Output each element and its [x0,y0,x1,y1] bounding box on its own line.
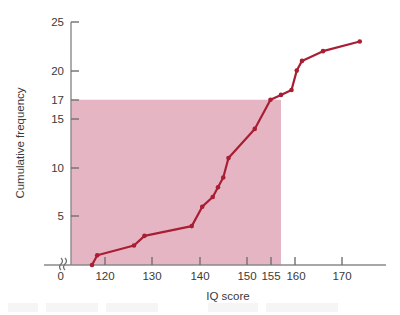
data-point [252,127,257,132]
data-point [321,49,326,54]
median-reference-block [71,100,281,265]
data-point [294,68,299,73]
y-tick-label-10: 10 [51,162,64,174]
data-point [216,185,221,190]
figure-caption-partial [8,303,392,312]
data-point [95,253,100,258]
data-point [189,224,194,229]
data-point [221,175,226,180]
data-point [226,156,231,161]
x-tick-label-120: 120 [95,270,114,282]
data-point [289,88,294,93]
x-tick-label-140: 140 [190,270,209,282]
x-tick-label-155: 155 [261,270,280,282]
y-tick-label-0: 0 [58,270,64,282]
data-point [279,93,284,98]
data-point [142,234,147,239]
data-point [132,243,137,248]
x-tick-label-170: 170 [332,270,351,282]
y-tick-label-25: 25 [51,16,64,28]
data-point [268,97,273,102]
y-axis-title: Cumulative frequency [14,87,26,198]
data-point [200,204,205,209]
x-tick-label-130: 130 [142,270,161,282]
x-tick-label-160: 160 [286,270,305,282]
data-point [90,263,95,268]
data-point [210,195,215,200]
y-tick-label-15: 15 [51,113,64,125]
y-tick-label-17: 17 [51,94,64,106]
data-point [357,39,362,44]
x-tick-label-150: 150 [237,270,256,282]
data-point [300,59,305,64]
x-axis-title: IQ score [206,290,249,302]
chart-figure: 25 20 17 15 10 5 0 120 130 140 150 155 1… [0,0,400,315]
y-tick-label-20: 20 [51,65,64,77]
y-tick-label-5: 5 [58,210,64,222]
cumulative-frequency-chart: 25 20 17 15 10 5 0 120 130 140 150 155 1… [0,0,400,315]
